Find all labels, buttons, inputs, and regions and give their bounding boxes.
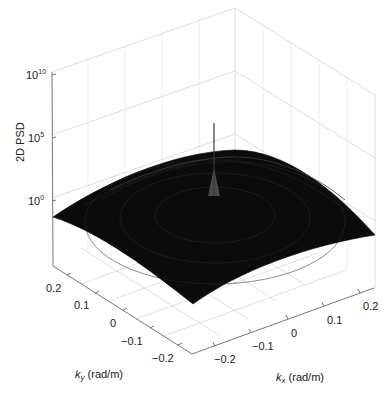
z-tick-base: 10 xyxy=(26,69,38,81)
z-tick-exp: 10 xyxy=(38,68,46,75)
y-tick-label: −0.2 xyxy=(152,353,174,364)
z-tick-1e5: 105 xyxy=(28,131,44,144)
y-tick-label: −0.1 xyxy=(121,336,143,347)
z-tick-1e0: 100 xyxy=(28,194,44,207)
x-axis-unit: (rad/m) xyxy=(286,371,325,383)
z-tick-1e10: 1010 xyxy=(26,68,46,81)
z-tick-base: 10 xyxy=(28,195,40,207)
x-tick-label: −0.2 xyxy=(214,354,236,365)
x-tick-label: 0.2 xyxy=(363,301,378,312)
x-tick-label: 0.1 xyxy=(327,315,342,326)
z-tick-exp: 0 xyxy=(40,194,44,201)
z-tick-base: 10 xyxy=(28,132,40,144)
surface-plot xyxy=(0,0,390,396)
x-tick-label: 0 xyxy=(291,328,297,339)
y-axis-label: ky (rad/m) xyxy=(75,368,123,382)
y-tick-label: 0.2 xyxy=(46,283,61,294)
z-axis-label: 2D PSD xyxy=(14,122,26,162)
y-axis-unit: (rad/m) xyxy=(85,368,124,380)
y-tick-label: 0.1 xyxy=(74,300,89,311)
z-tick-exp: 5 xyxy=(40,131,44,138)
y-tick-label: 0 xyxy=(110,318,116,329)
x-axis-label: kx (rad/m) xyxy=(276,371,324,385)
x-tick-label: −0.1 xyxy=(252,341,274,352)
